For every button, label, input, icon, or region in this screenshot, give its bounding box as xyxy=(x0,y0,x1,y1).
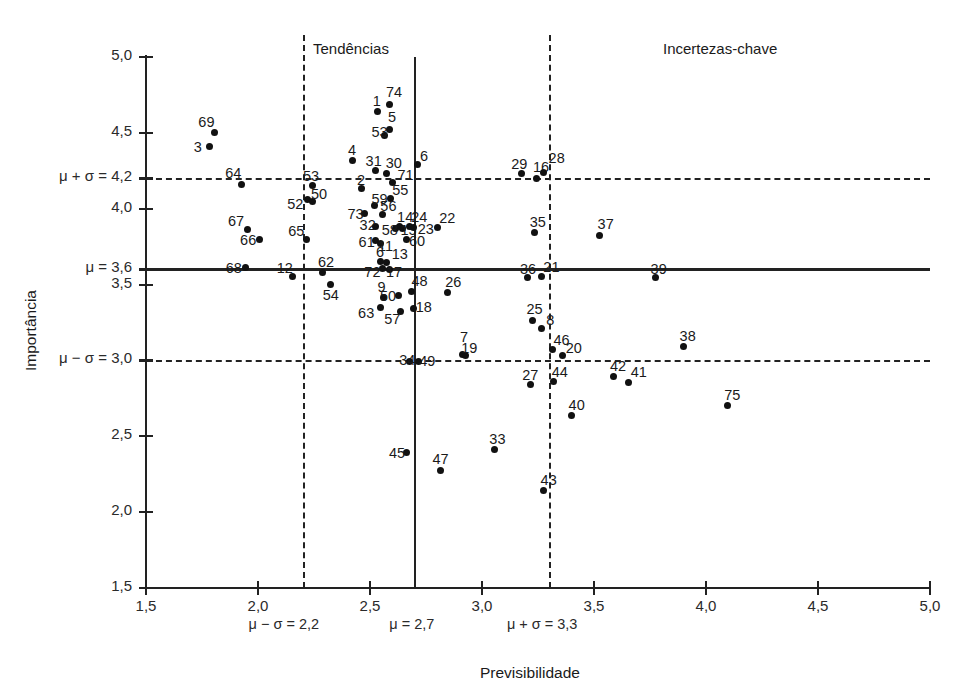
data-point-label: 65 xyxy=(288,223,304,239)
y-axis-line xyxy=(145,55,147,590)
reference-line-lower-sigma-importance xyxy=(146,360,930,362)
data-point-label: 55 xyxy=(392,182,408,198)
data-point-label: 48 xyxy=(411,273,427,289)
data-point-label: 66 xyxy=(240,232,256,248)
data-point-label: 31 xyxy=(366,153,382,169)
reference-line-lower-sigma-predictability xyxy=(303,35,305,588)
x-axis-tick-label: 1,5 xyxy=(128,597,164,614)
data-point-label: 18 xyxy=(416,299,432,315)
data-point-label: 64 xyxy=(225,165,241,181)
x-axis-tick xyxy=(257,581,259,595)
data-point-label: 52 xyxy=(287,196,303,212)
data-point-label: 39 xyxy=(651,261,667,277)
data-point-label: 50 xyxy=(311,186,327,202)
data-point-label: 22 xyxy=(439,210,455,226)
data-point-label: 45 xyxy=(389,445,405,461)
data-point[interactable] xyxy=(596,232,603,239)
data-point-label: 33 xyxy=(489,431,505,447)
data-point[interactable] xyxy=(724,402,731,409)
data-point-label: 50 xyxy=(380,288,396,304)
x-axis-tick xyxy=(369,581,371,595)
data-point[interactable] xyxy=(238,181,245,188)
x-axis-tick xyxy=(929,581,931,595)
data-point-label: 47 xyxy=(433,451,449,467)
data-point[interactable] xyxy=(437,467,444,474)
data-point-label: 20 xyxy=(566,340,582,356)
x-axis-tick-label: 5,0 xyxy=(912,597,948,614)
y-axis-tick xyxy=(139,511,153,513)
y-axis-tick xyxy=(139,208,153,210)
y-axis-tick xyxy=(139,284,153,286)
quadrant-label-incertezas-chave: Incertezas-chave xyxy=(663,40,777,57)
data-point-label: 54 xyxy=(323,287,339,303)
y-axis-tick xyxy=(139,359,153,361)
x-axis-tick-label: 3,5 xyxy=(576,597,612,614)
x-axis-tick xyxy=(481,581,483,595)
y-axis-tick-label: μ + σ = 4,2 xyxy=(0,167,132,184)
data-point-label: 67 xyxy=(228,213,244,229)
data-point[interactable] xyxy=(377,304,384,311)
y-axis-tick-label: μ − σ = 3,0 xyxy=(0,349,132,366)
data-point-label: 36 xyxy=(520,261,536,277)
data-point-label: 53 xyxy=(303,168,319,184)
x-axis-stat-label: μ = 2,7 xyxy=(357,616,467,632)
data-point[interactable] xyxy=(374,108,381,115)
data-point[interactable] xyxy=(529,317,536,324)
data-point-label: 6 xyxy=(420,148,428,164)
data-point-label: 3 xyxy=(194,139,202,155)
data-point[interactable] xyxy=(680,343,687,350)
data-point[interactable] xyxy=(540,487,547,494)
data-point-label: 71 xyxy=(397,167,413,183)
reference-line-mean-importance xyxy=(146,268,930,270)
data-point[interactable] xyxy=(256,236,263,243)
data-point[interactable] xyxy=(538,325,545,332)
x-axis-tick xyxy=(817,581,819,595)
data-point-label: 17 xyxy=(386,264,402,280)
data-point-label: 49 xyxy=(419,353,435,369)
data-point-label: 44 xyxy=(552,364,568,380)
data-point-label: 72 xyxy=(364,264,380,280)
y-axis-tick-label: 4,5 xyxy=(0,122,132,139)
x-axis-tick-label: 4,0 xyxy=(688,597,724,614)
data-point-label: 6 xyxy=(376,244,384,260)
x-axis-stat-label: μ − σ = 2,2 xyxy=(229,616,339,632)
x-axis-tick-label: 3,0 xyxy=(464,597,500,614)
data-point-label: 69 xyxy=(198,114,214,130)
data-point-label: 8 xyxy=(546,312,554,328)
x-axis-line xyxy=(145,587,931,589)
data-point-label: 27 xyxy=(522,367,538,383)
data-point[interactable] xyxy=(540,169,547,176)
scatter-chart-figure: 5,04,5μ + σ = 4,24,0μ = 3,63,5μ − σ = 3,… xyxy=(0,0,963,695)
data-point[interactable] xyxy=(386,101,393,108)
data-point-label: 32 xyxy=(360,217,376,233)
data-point[interactable] xyxy=(533,175,540,182)
y-axis-tick xyxy=(139,435,153,437)
data-point-label: 63 xyxy=(358,305,374,321)
data-point-label: 41 xyxy=(631,364,647,380)
y-axis-tick xyxy=(139,56,153,58)
data-point-label: 58 xyxy=(382,222,398,238)
data-point-label: 1 xyxy=(373,93,381,109)
data-point-label: 28 xyxy=(549,150,565,166)
y-axis-tick xyxy=(139,268,153,270)
data-point[interactable] xyxy=(211,129,218,136)
x-axis-tick-label: 2,5 xyxy=(352,597,388,614)
x-axis-tick-label: 2,0 xyxy=(240,597,276,614)
data-point-label: 74 xyxy=(386,84,402,100)
data-point-label: 19 xyxy=(461,340,477,356)
data-point-label: 4 xyxy=(348,142,356,158)
data-point[interactable] xyxy=(568,412,575,419)
data-point-label: 75 xyxy=(724,387,740,403)
data-point-label: 40 xyxy=(569,397,585,413)
y-axis-tick-label: 2,5 xyxy=(0,425,132,442)
x-axis-tick xyxy=(145,581,147,595)
y-axis-tick-label: 1,5 xyxy=(0,577,132,594)
y-axis-tick xyxy=(139,177,153,179)
data-point[interactable] xyxy=(206,143,213,150)
x-axis-stat-label: μ + σ = 3,3 xyxy=(487,616,597,632)
data-point-label: 38 xyxy=(680,328,696,344)
quadrant-label-tendencias: Tendências xyxy=(313,40,389,57)
y-axis-tick-label: 5,0 xyxy=(0,46,132,63)
x-axis-tick xyxy=(705,581,707,595)
data-point-label: 56 xyxy=(380,198,396,214)
